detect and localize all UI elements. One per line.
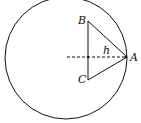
label-c: C	[78, 73, 87, 86]
diagram: B C A h	[0, 0, 141, 123]
foot-point	[87, 56, 89, 58]
point-a-dot	[125, 56, 127, 58]
label-b: B	[77, 14, 86, 27]
circle	[5, 0, 127, 119]
label-h: h	[103, 44, 110, 57]
label-a: A	[129, 51, 138, 64]
